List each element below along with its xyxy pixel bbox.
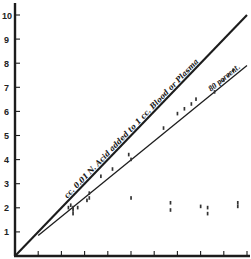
line-annotations: cc. 0.01 N. Acid added to 1 cc. Blood or… bbox=[62, 57, 242, 200]
data-point bbox=[100, 174, 102, 178]
data-point bbox=[191, 102, 193, 106]
data-point bbox=[88, 191, 90, 195]
data-point bbox=[112, 167, 114, 171]
y-axis-ticks: 12345678910 bbox=[2, 11, 20, 238]
data-point bbox=[170, 201, 172, 205]
y-tick-label: 1 bbox=[4, 227, 9, 237]
data-point bbox=[237, 201, 239, 205]
data-point bbox=[72, 212, 74, 216]
data-point bbox=[128, 153, 130, 157]
data-point bbox=[88, 196, 90, 200]
data-point bbox=[177, 112, 179, 116]
y-tick-label: 2 bbox=[4, 203, 9, 213]
data-point bbox=[72, 206, 74, 210]
data-point bbox=[86, 199, 88, 203]
y-tick-label: 4 bbox=[4, 155, 9, 165]
data-point bbox=[195, 97, 197, 101]
data-point bbox=[237, 205, 239, 209]
data-point bbox=[184, 107, 186, 111]
data-point bbox=[170, 208, 172, 212]
main-reference-line bbox=[15, 15, 247, 256]
data-point bbox=[207, 212, 209, 216]
data-point bbox=[70, 203, 72, 207]
percent-line-label: 80 percent. bbox=[207, 62, 242, 93]
y-tick-label: 5 bbox=[4, 131, 9, 141]
y-tick-label: 6 bbox=[4, 107, 9, 117]
data-point bbox=[68, 206, 70, 210]
data-point bbox=[130, 158, 132, 162]
data-point bbox=[77, 206, 79, 210]
data-point bbox=[200, 205, 202, 209]
reference-lines bbox=[15, 15, 247, 256]
chart-canvas: 12345678910 cc. 0.01 N. Acid added to 1 … bbox=[0, 0, 251, 259]
y-tick-label: 3 bbox=[4, 179, 9, 189]
main-line-label: cc. 0.01 N. Acid added to 1 cc. Blood or… bbox=[62, 57, 200, 200]
y-tick-label: 7 bbox=[4, 83, 9, 93]
percent-reference-line bbox=[38, 66, 247, 236]
y-tick-label: 9 bbox=[4, 35, 9, 45]
data-point bbox=[163, 126, 165, 130]
data-point bbox=[207, 206, 209, 210]
y-tick-label: 10 bbox=[2, 11, 12, 21]
data-point bbox=[130, 196, 132, 200]
y-tick-label: 8 bbox=[4, 59, 9, 69]
